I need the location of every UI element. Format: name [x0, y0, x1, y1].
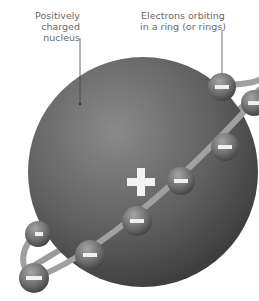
atom-diagram: Positively charged nucleus Electrons orb… [0, 0, 259, 301]
electron [167, 167, 195, 195]
atom-illustration [0, 0, 259, 301]
nucleus-label: Positively charged nucleus [35, 10, 80, 43]
electron [208, 73, 236, 101]
electron [122, 206, 152, 236]
electron [75, 240, 105, 270]
electron [19, 263, 49, 293]
electron [25, 221, 51, 247]
electrons-label: Electrons orbiting in a ring (or rings) [140, 10, 226, 32]
electron [211, 133, 239, 161]
